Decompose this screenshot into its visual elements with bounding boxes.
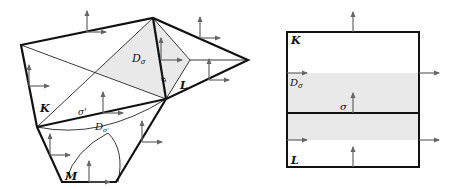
label-k: K <box>290 34 301 47</box>
label-sigma-prime: σ' <box>78 107 87 117</box>
left-mesh-figure: K L M Dσ σ σ' Dσ' <box>21 11 248 183</box>
diagram-canvas: K L M Dσ σ σ' Dσ' K L Dσ σ <box>0 0 460 189</box>
label-k: K <box>39 102 50 115</box>
label-m: M <box>64 170 78 183</box>
label-sigma: σ <box>340 101 348 112</box>
right-mesh-figure: K L Dσ σ <box>287 12 439 167</box>
label-l: L <box>290 154 299 167</box>
label-d-sigma-prime: Dσ' <box>94 121 109 133</box>
label-l: L <box>179 79 188 92</box>
